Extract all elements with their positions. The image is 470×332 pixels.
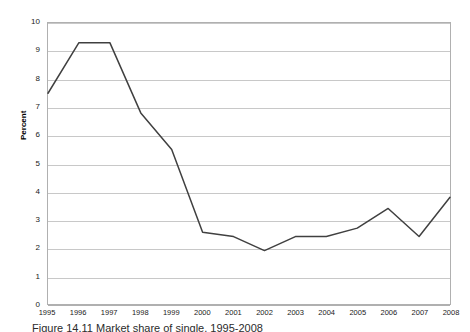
y-tick-label-3: 3 (36, 216, 40, 224)
y-tick-label-1: 1 (36, 273, 40, 281)
x-tick-label-2006: 2006 (381, 308, 398, 317)
y-tick-label-7: 7 (36, 103, 40, 111)
y-tick-label-9: 9 (36, 46, 40, 54)
y-tick-label-10: 10 (31, 18, 40, 26)
x-tick-label-2005: 2005 (349, 308, 366, 317)
x-axis-tick-labels: 1995199619971998199920002001200220032004… (47, 308, 451, 320)
x-tick-label-2007: 2007 (412, 308, 429, 317)
x-tick-label-1998: 1998 (132, 308, 149, 317)
x-tick-label-2002: 2002 (256, 308, 273, 317)
y-tick-label-6: 6 (36, 131, 40, 139)
y-tick-label-2: 2 (36, 244, 40, 252)
figure-container: Percent 012345678910 1995199619971998199… (0, 0, 470, 332)
y-tick-label-4: 4 (36, 188, 40, 196)
x-tick-label-2008: 2008 (443, 308, 460, 317)
y-tick-label-8: 8 (36, 75, 40, 83)
x-tick-label-2004: 2004 (318, 308, 335, 317)
series-line-chart (48, 23, 450, 304)
x-tick-label-1999: 1999 (163, 308, 180, 317)
y-axis-tick-labels: 012345678910 (0, 22, 45, 305)
gridline-0 (48, 305, 450, 306)
series-line-percent (48, 43, 450, 251)
figure-caption: Figure 14.11 Market share of single, 199… (32, 322, 452, 332)
plot-area (47, 22, 451, 305)
x-tick-label-2003: 2003 (287, 308, 304, 317)
x-tick-label-1995: 1995 (39, 308, 56, 317)
x-tick-label-1996: 1996 (70, 308, 87, 317)
x-tick-label-2000: 2000 (194, 308, 211, 317)
x-tick-label-2001: 2001 (225, 308, 242, 317)
x-tick-label-1997: 1997 (101, 308, 118, 317)
y-tick-label-5: 5 (36, 160, 40, 168)
